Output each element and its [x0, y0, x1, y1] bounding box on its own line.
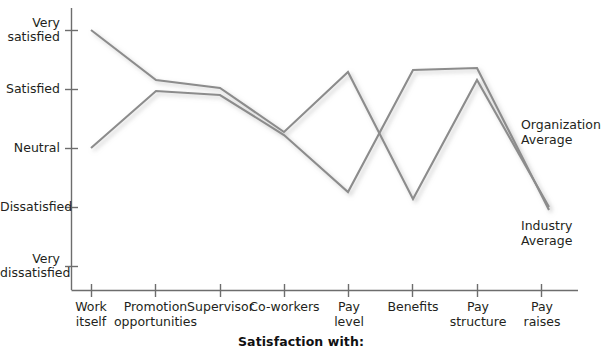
y-tick-label-very-satisfied: Very satisfied [0, 16, 60, 44]
series-label-organization-average: Organization Average [521, 118, 601, 147]
series-label-industry-average: Industry Average [521, 219, 572, 248]
series-line-industry-average [91, 68, 549, 210]
y-tick-label-neutral: Neutral [0, 141, 60, 155]
y-tick-label-satisfied: Satisfied [0, 82, 60, 96]
series-line-organization-average [91, 30, 549, 207]
y-tick-label-very-dissatisfied: Very dissatisfied [0, 252, 60, 280]
y-tick-label-dissatisfied: Dissatisfied [0, 200, 60, 214]
x-tick-label-pay-raises: Pay raises [507, 300, 577, 329]
x-axis-title: Satisfaction with: [238, 334, 364, 349]
